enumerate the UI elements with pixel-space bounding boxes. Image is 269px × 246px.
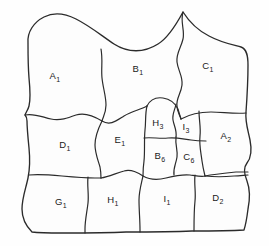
cell-map-svg: A1 B1 C1 D1 E1 H3 I3 A2 B6 C6 — [0, 0, 269, 246]
cell-map-diagram: A1 B1 C1 D1 E1 H3 I3 A2 B6 C6 — [0, 0, 269, 246]
